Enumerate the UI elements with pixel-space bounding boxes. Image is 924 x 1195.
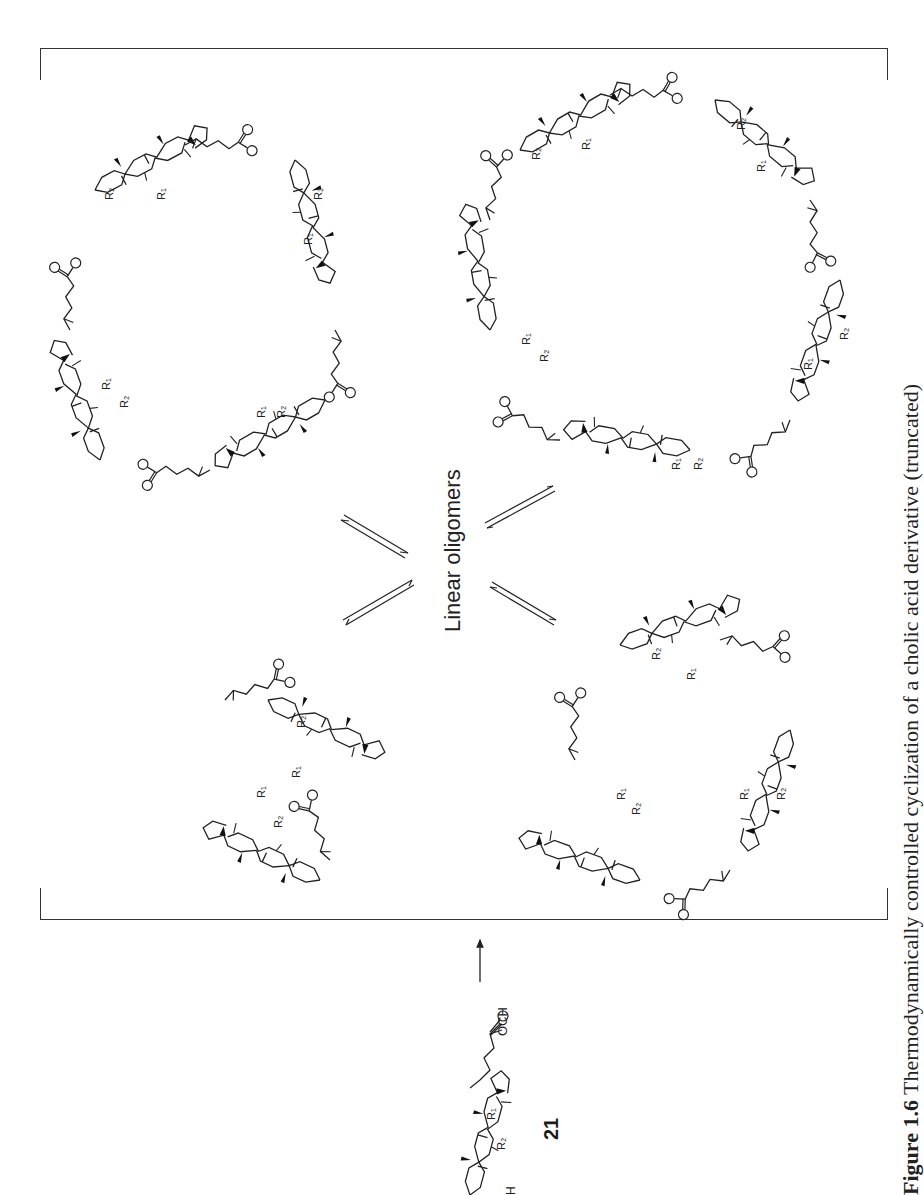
svg-text:R₁: R₁ [302,233,314,245]
svg-text:R₁: R₁ [670,458,682,470]
hydroxyl-h-label: H [504,1186,518,1195]
svg-text:R₁: R₁ [580,138,592,150]
svg-text:R₁: R₁ [755,160,767,172]
svg-text:R₁: R₁ [615,788,627,800]
svg-text:R₂: R₂ [630,803,642,815]
svg-text:R₂: R₂ [103,188,115,200]
svg-text:R₁: R₁ [255,406,267,418]
svg-text:R₁: R₁ [520,333,532,345]
svg-text:R₁: R₁ [802,358,814,370]
equilibrium-arrow-bottom-right [490,582,556,625]
macrocycle-bottom-left: R₂ R₁ R₁ R₂ [196,657,391,896]
compound-number-label: 21 [540,1118,563,1140]
svg-text:R₁: R₁ [685,668,697,680]
och3-label: OCH [495,1007,510,1036]
svg-text:R₁: R₁ [255,786,267,798]
svg-text:R₂: R₂ [118,396,130,408]
svg-text:R₁: R₁ [290,766,302,778]
svg-text:R₂: R₂ [775,788,787,800]
svg-text:R₁: R₁ [100,378,112,390]
r2-label-21: R₂ [495,1138,507,1150]
figure-caption: Figure 1.6 Thermodynamically controlled … [898,384,924,1195]
macrocycle-bottom-right: R₂ R₁ R₂ R₁ R₁ R₂ [514,584,807,923]
macrocycle-top-right: R₂ R₁ R₂ R₁ R₂ R₁ R₁ R₂ R₁ R₂ [450,64,857,483]
compound-21-structure [453,1011,519,1195]
linear-oligomers-label: Linear oligomers [440,469,466,632]
macrocycle-top-left: R₂ R₁ R₂ R₁ R₁ R₂ R₁ R₂ [39,114,365,501]
r1-label-21: R₁ [485,1108,497,1120]
svg-text:R₂: R₂ [295,716,307,728]
svg-text:R₂: R₂ [735,118,747,130]
svg-text:R₂: R₂ [530,148,542,160]
svg-text:R₂: R₂ [312,188,324,200]
equilibrium-arrow-top-left [341,515,408,558]
svg-text:R₂: R₂ [538,350,550,362]
svg-text:R₂: R₂ [692,458,704,470]
svg-text:R₂: R₂ [650,648,662,660]
svg-text:R₁: R₁ [155,188,167,200]
equilibrium-arrow-bottom-left [343,580,414,625]
svg-text:R₂: R₂ [275,406,287,418]
svg-text:R₂: R₂ [838,328,850,340]
equilibrium-arrow-top-right [485,486,555,528]
figure-caption-prefix: Figure 1.6 [898,1100,923,1195]
svg-text:R₁: R₁ [738,788,750,800]
svg-text:R₂: R₂ [272,816,284,828]
figure-caption-text: Thermodynamically controlled cyclization… [898,384,923,1095]
